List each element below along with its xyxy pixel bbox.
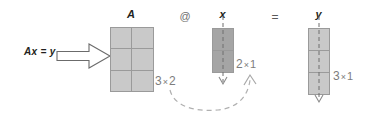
matrix-a-title: A xyxy=(110,8,152,20)
vector-x-grid xyxy=(212,28,233,72)
matrix-a-dim-rows: 3 xyxy=(155,74,162,88)
vector-x-dimension-label: 2×1 xyxy=(236,57,256,71)
vector-y-dimension-label: 3×1 xyxy=(333,69,353,83)
vector-x-cell xyxy=(212,28,234,51)
matrix-a-dim-cols: 2 xyxy=(169,74,176,88)
vector-y-cell xyxy=(308,72,330,95)
equation-label: Ax = y xyxy=(24,46,56,57)
vector-y-cell xyxy=(308,28,330,51)
matrix-a-cell xyxy=(110,70,133,93)
vector-x-cell xyxy=(212,50,234,73)
vector-y-cell xyxy=(308,50,330,73)
matrix-a-cell xyxy=(131,27,154,50)
vector-y-dim-cols: 1 xyxy=(347,70,353,82)
equals-operator-symbol: = xyxy=(255,10,295,24)
vector-y-dim-rows: 3 xyxy=(333,69,340,83)
diagram-canvas: Ax = y A @ x = y xyxy=(0,0,370,115)
matrix-a-cell xyxy=(131,70,154,93)
matrix-a-dim-times: × xyxy=(162,77,169,87)
vector-y-dim-times: × xyxy=(340,72,347,82)
matrix-a-cell xyxy=(131,48,154,71)
vector-x-dim-cols: 1 xyxy=(250,58,256,70)
vector-x-dim-rows: 2 xyxy=(236,57,243,71)
matmul-operator-symbol: @ xyxy=(165,10,205,22)
vector-x-title: x xyxy=(212,8,233,20)
matrix-a-grid xyxy=(110,27,153,92)
matrix-a-cell xyxy=(110,48,133,71)
matrix-a-dimension-label: 3×2 xyxy=(155,74,176,88)
matrix-a-cell xyxy=(110,27,133,50)
vector-y-title: y xyxy=(308,8,329,20)
shape-match-curved-arrow-icon xyxy=(168,72,264,114)
vector-y-grid xyxy=(308,28,329,94)
block-arrow-icon xyxy=(56,42,112,70)
vector-x-dim-times: × xyxy=(243,60,250,70)
